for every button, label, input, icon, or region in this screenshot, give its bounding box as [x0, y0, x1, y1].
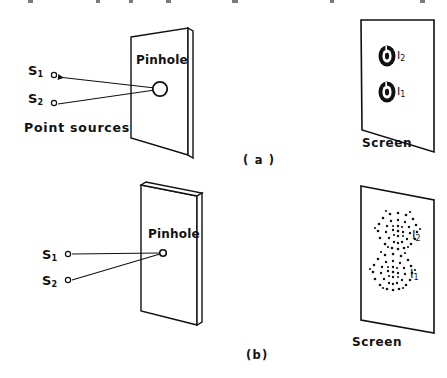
- source-label-s2-a: S2: [28, 92, 43, 107]
- source-s2-a-sub: 2: [37, 98, 43, 107]
- source-s2-b-sub: 2: [51, 280, 57, 289]
- pinhole-label-a: Pinhole: [136, 54, 188, 66]
- pinhole-aperture-b: [160, 250, 167, 257]
- source-dots-a: [51, 72, 56, 105]
- source-s1-b-sub: 1: [51, 254, 57, 263]
- source-label-s1-b: S1: [42, 248, 57, 263]
- i2-b-sub: 2: [416, 234, 421, 243]
- source-s1-b-base: S: [42, 247, 51, 262]
- intensity-label-i2-a: I2: [397, 50, 405, 63]
- caption-a: ( a ): [243, 155, 275, 167]
- point-sources-label: Point sources: [24, 122, 130, 135]
- intensity-label-i1-b: I1: [410, 268, 419, 282]
- intensity-label-i2-b: I2: [412, 229, 421, 243]
- screen-panel-b: [361, 186, 434, 333]
- intensity-label-i1-a: I1: [397, 86, 405, 99]
- top-crop-marks: [28, 0, 425, 3]
- image-spot-i2-a: [379, 46, 396, 67]
- screen-label-b: Screen: [352, 336, 402, 348]
- pinhole-aperture-a: [153, 82, 167, 96]
- source-dots-b: [65, 251, 70, 282]
- i1-b-sub: 1: [414, 273, 419, 282]
- source-s2-b-base: S: [42, 273, 51, 288]
- source-label-s2-b: S2: [42, 274, 57, 289]
- source-s1-a-base: S: [28, 63, 37, 78]
- source-label-s1-a: S1: [28, 64, 43, 79]
- i1-a-sub: 1: [400, 90, 405, 99]
- i2-a-sub: 2: [400, 54, 405, 63]
- image-spot-i1-a: [379, 82, 396, 103]
- caption-b: (b): [246, 350, 268, 362]
- source-s1-a-sub: 1: [37, 70, 43, 79]
- source-s2-a-base: S: [28, 91, 37, 106]
- optics-figure: Pinhole Pinhole S1 S2 Point sources S1 S…: [0, 0, 447, 378]
- figure-linework: [0, 0, 447, 378]
- pinhole-label-b: Pinhole: [148, 228, 200, 240]
- screen-label-a: Screen: [362, 137, 412, 149]
